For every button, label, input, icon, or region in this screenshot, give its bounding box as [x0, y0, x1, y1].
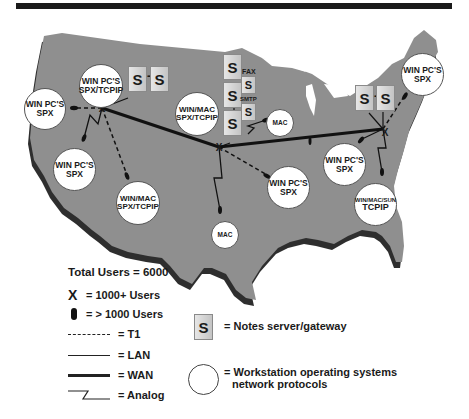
legend-server: = Notes server/gateway: [224, 320, 347, 332]
legend-lan: = LAN: [68, 349, 150, 361]
workstation-label-2: network protocols: [232, 378, 327, 390]
legend-total-users: Total Users = 6000: [68, 266, 168, 278]
server-symbol: S: [198, 319, 208, 336]
wan-label: = WAN: [118, 369, 153, 381]
legend-analog: = Analog: [68, 389, 164, 401]
t1-line-icon: [68, 334, 110, 335]
wan-line-icon: [68, 374, 110, 377]
t1-label: = T1: [118, 328, 140, 340]
workstation-label: = Workstation operating systems: [224, 366, 397, 378]
legend-workstation-icon: [188, 364, 219, 395]
lan-line-icon: [68, 355, 110, 356]
legend-wan: = WAN: [68, 369, 153, 381]
legend-workstation: = Workstation operating systems network …: [224, 366, 397, 390]
server-label: = Notes server/gateway: [224, 320, 347, 332]
x-label: = 1000+ Users: [86, 289, 160, 301]
analog-label: = Analog: [118, 389, 164, 401]
legend-t1: = T1: [68, 328, 140, 340]
x-junction-icon: X: [68, 287, 80, 303]
legend: Total Users = 6000 X = 1000+ Users = > 1…: [0, 0, 469, 419]
user-oval-icon: [71, 308, 77, 320]
legend-server-icon: S: [194, 314, 213, 340]
oval-label: = > 1000 Users: [86, 308, 163, 320]
analog-line-icon: [68, 389, 110, 401]
legend-oval: = > 1000 Users: [68, 308, 163, 320]
total-users-text: Total Users = 6000: [68, 266, 168, 278]
legend-x: X = 1000+ Users: [68, 287, 160, 303]
lan-label: = LAN: [118, 349, 150, 361]
